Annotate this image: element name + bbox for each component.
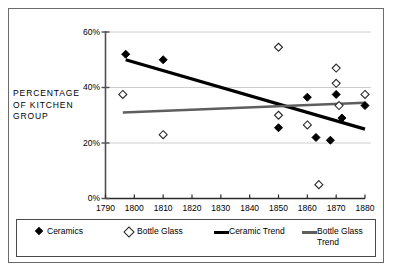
x-tick-label: 1810	[148, 203, 178, 213]
chart-legend: Ceramics Bottle Glass Ceramic Trend Bott…	[16, 219, 376, 257]
thick-line-icon	[213, 226, 229, 237]
legend-label-ceramic-trend: Ceramic Trend	[229, 226, 285, 237]
legend-label-bottle-glass-trend: Bottle GlassTrend	[317, 226, 375, 247]
x-tick-label: 1880	[350, 203, 380, 213]
y-tick-label: 0%	[62, 193, 100, 203]
bottle-glass-markers	[119, 43, 369, 188]
trend-lines	[123, 60, 365, 129]
y-axis-title-line-2: OF KITCHEN	[13, 100, 97, 112]
legend-item-ceramics: Ceramics	[31, 226, 83, 237]
x-tick-label: 1830	[206, 203, 236, 213]
x-tick-label: 1840	[235, 203, 265, 213]
x-tick-label: 1870	[321, 203, 351, 213]
legend-label-bottle-glass-trend-line2: Trend	[317, 237, 339, 247]
legend-label-ceramics: Ceramics	[47, 226, 83, 237]
legend-label-bottle-glass-trend-line1: Bottle Glass	[317, 226, 363, 236]
y-axis-title: PERCENTAGE OF KITCHEN GROUP	[13, 88, 97, 123]
x-tick-label: 1800	[119, 203, 149, 213]
x-tick-label: 1850	[264, 203, 294, 213]
chart-figure: PERCENTAGE OF KITCHEN GROUP 0%20%40%60% …	[0, 0, 394, 273]
axis-lines	[106, 31, 366, 199]
filled-diamond-icon	[31, 226, 47, 237]
x-tick-label: 1790	[91, 203, 121, 213]
legend-label-bottle-glass: Bottle Glass	[137, 226, 183, 237]
open-diamond-icon	[121, 226, 137, 239]
x-tick-label: 1820	[177, 203, 207, 213]
y-tick-label: 40%	[62, 82, 100, 92]
thin-line-icon	[301, 226, 317, 237]
y-tick-label: 60%	[62, 27, 100, 37]
legend-item-bottle-glass: Bottle Glass	[121, 226, 183, 239]
y-tick-label: 20%	[62, 138, 100, 148]
legend-item-ceramic-trend: Ceramic Trend	[213, 226, 285, 237]
x-tick-label: 1860	[292, 203, 322, 213]
ceramics-markers	[122, 50, 369, 144]
y-axis-title-line-3: GROUP	[13, 111, 97, 123]
gridlines	[106, 32, 372, 143]
legend-item-bottle-glass-trend: Bottle GlassTrend	[301, 226, 375, 247]
